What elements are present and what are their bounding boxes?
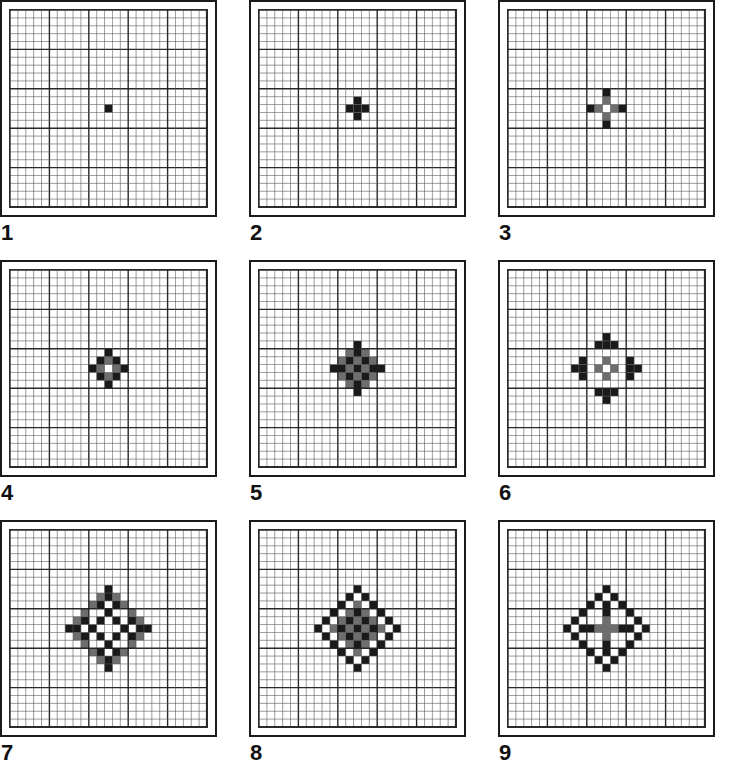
panel-1: 1 bbox=[0, 0, 249, 260]
panel-4-canvas bbox=[9, 269, 208, 468]
panel-7-frame bbox=[0, 520, 217, 737]
panel-9: 9 bbox=[498, 520, 747, 782]
panel-row-3: 7 8 9 bbox=[0, 520, 747, 782]
panel-8-label: 8 bbox=[249, 737, 498, 764]
panel-4-label: 4 bbox=[0, 477, 249, 504]
panel-8: 8 bbox=[249, 520, 498, 782]
panel-7-label: 7 bbox=[0, 737, 249, 764]
panel-9-label: 9 bbox=[498, 737, 747, 764]
panel-5-frame bbox=[249, 260, 466, 477]
panel-1-canvas bbox=[9, 9, 208, 208]
panel-5-label: 5 bbox=[249, 477, 498, 504]
panel-2-frame bbox=[249, 0, 466, 217]
panel-6-frame bbox=[498, 260, 715, 477]
panel-7: 7 bbox=[0, 520, 249, 782]
panel-3-frame bbox=[498, 0, 715, 217]
panel-4: 4 bbox=[0, 260, 249, 520]
panel-8-frame bbox=[249, 520, 466, 737]
panel-2-canvas bbox=[258, 9, 457, 208]
panel-2: 2 bbox=[249, 0, 498, 260]
panel-6: 6 bbox=[498, 260, 747, 520]
panel-7-canvas bbox=[9, 529, 208, 728]
panel-5-canvas bbox=[258, 269, 457, 468]
panel-9-canvas bbox=[507, 529, 706, 728]
panel-2-label: 2 bbox=[249, 217, 498, 244]
panel-1-frame bbox=[0, 0, 217, 217]
panel-6-canvas bbox=[507, 269, 706, 468]
panel-9-frame bbox=[498, 520, 715, 737]
panel-6-label: 6 bbox=[498, 477, 747, 504]
panel-4-frame bbox=[0, 260, 217, 477]
pattern-sheet: 1 2 3 4 5 bbox=[0, 0, 747, 782]
panel-1-label: 1 bbox=[0, 217, 249, 244]
panel-3-label: 3 bbox=[498, 217, 747, 244]
panel-8-canvas bbox=[258, 529, 457, 728]
panel-row-1: 1 2 3 bbox=[0, 0, 747, 260]
panel-row-2: 4 5 6 bbox=[0, 260, 747, 520]
panel-5: 5 bbox=[249, 260, 498, 520]
panel-3: 3 bbox=[498, 0, 747, 260]
panel-3-canvas bbox=[507, 9, 706, 208]
